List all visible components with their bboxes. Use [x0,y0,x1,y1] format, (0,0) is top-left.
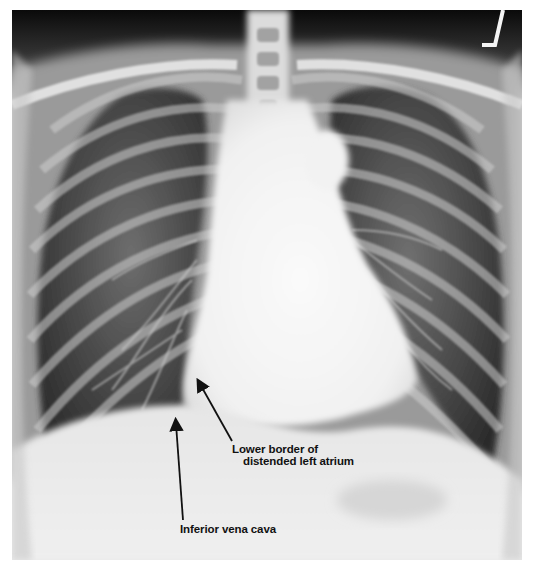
label-inferior-vena-cava: Inferior vena cava [180,523,276,535]
radiograph-render [12,10,522,560]
aortic-knob [305,130,349,190]
gastric-bubble [337,480,447,520]
chest-xray-image [12,10,522,560]
label-left-atrium-line2: distended left atrium [232,455,354,467]
label-left-atrium: Lower border of distended left atrium [232,443,354,467]
label-left-atrium-line1: Lower border of [232,443,318,455]
